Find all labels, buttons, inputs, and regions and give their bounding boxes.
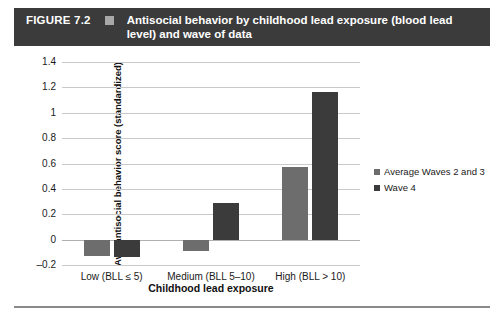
y-axis-tick-label: 1.4 — [0, 56, 56, 67]
bar-average-waves-2-and-3-0 — [84, 240, 110, 256]
gridline — [62, 62, 360, 63]
legend-label: Wave 4 — [384, 182, 416, 193]
bottom-divider — [14, 306, 490, 308]
bar-average-waves-2-and-3-2 — [282, 167, 308, 239]
x-axis-title: Childhood lead exposure — [62, 282, 360, 294]
y-axis-tick-label: 0.2 — [0, 208, 56, 219]
y-axis-tick-label: 0.8 — [0, 132, 56, 143]
figure-number-label: FIGURE 7.2 — [14, 14, 91, 27]
figure-title-text: Antisocial behavior by childhood lead ex… — [127, 14, 457, 41]
gridline — [62, 87, 360, 88]
legend-item: Wave 4 — [374, 182, 485, 193]
plot-area: Ave, antisocial behavior score (standard… — [62, 62, 360, 265]
x-axis-tick-label: High (BLL > 10) — [261, 271, 360, 282]
bar-wave-4-1 — [213, 203, 239, 240]
legend-swatch-icon — [374, 169, 380, 175]
figure-container: FIGURE 7.2 Antisocial behavior by childh… — [0, 0, 503, 322]
gridline — [62, 265, 360, 266]
y-axis-tick-label: 0 — [0, 234, 56, 245]
legend-swatch-icon — [374, 185, 380, 191]
square-marker-icon — [105, 16, 114, 25]
legend-label: Average Waves 2 and 3 — [384, 166, 485, 177]
y-axis-tick-label: 1.2 — [0, 81, 56, 92]
chart-legend: Average Waves 2 and 3Wave 4 — [374, 166, 485, 198]
y-axis-tick-label: –0.2 — [0, 259, 56, 270]
chart-canvas: Ave, antisocial behavior score (standard… — [0, 50, 503, 300]
y-axis-tick-label: 0.6 — [0, 158, 56, 169]
figure-title-banner: FIGURE 7.2 Antisocial behavior by childh… — [14, 8, 490, 46]
bar-wave-4-0 — [114, 240, 140, 258]
x-axis-tick-label: Medium (BLL 5–10) — [161, 271, 260, 282]
bar-wave-4-2 — [312, 92, 338, 239]
x-axis-tick-label: Low (BLL ≤ 5) — [62, 271, 161, 282]
y-axis-tick-label: 0.4 — [0, 183, 56, 194]
y-axis-tick-label: 1 — [0, 107, 56, 118]
legend-item: Average Waves 2 and 3 — [374, 166, 485, 177]
bar-average-waves-2-and-3-1 — [183, 240, 209, 251]
